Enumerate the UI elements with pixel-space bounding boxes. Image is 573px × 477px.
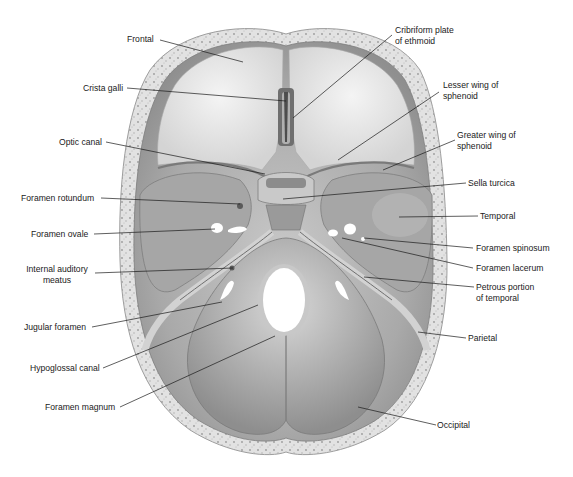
- label-jugular-foramen: Jugular foramen: [24, 322, 86, 333]
- label-foramen-magnum: Foramen magnum: [45, 402, 115, 413]
- label-foramen-ovale: Foramen ovale: [31, 229, 88, 240]
- foramen-magnum-shape: [258, 264, 310, 336]
- skull-base-diagram: Frontal Crista galli Optic canal Foramen…: [0, 0, 573, 477]
- label-temporal: Temporal: [480, 211, 515, 222]
- label-parietal: Parietal: [468, 333, 497, 344]
- label-foramen-spinosum: Foramen spinosum: [476, 243, 550, 254]
- label-greater-wing: Greater wing of sphenoid: [457, 130, 516, 151]
- label-foramen-lacerum: Foramen lacerum: [476, 263, 543, 274]
- label-occipital: Occipital: [437, 420, 470, 431]
- label-hypoglossal-canal: Hypoglossal canal: [30, 363, 100, 374]
- crista-galli-shape: [278, 88, 294, 146]
- label-frontal: Frontal: [127, 34, 154, 45]
- label-cribriform-plate: Cribriform plate of ethmoid: [395, 25, 454, 46]
- label-sella-turcica: Sella turcica: [468, 178, 515, 189]
- label-foramen-rotundum: Foramen rotundum: [21, 193, 94, 204]
- label-internal-auditory-meatus: Internal auditory meatus: [22, 264, 92, 285]
- label-petrous-portion: Petrous portion of temporal: [476, 282, 534, 303]
- label-lesser-wing: Lesser wing of sphenoid: [443, 80, 498, 101]
- label-optic-canal: Optic canal: [59, 137, 102, 148]
- label-crista-galli: Crista galli: [83, 83, 123, 94]
